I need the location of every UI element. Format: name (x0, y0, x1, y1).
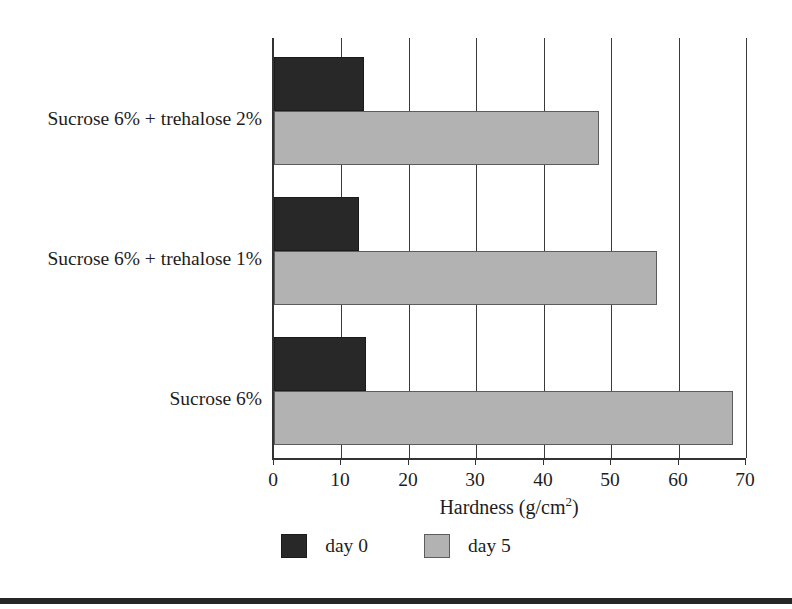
x-tick-label-60: 60 (668, 468, 688, 492)
legend-item-day5: day 5 (424, 534, 511, 558)
x-tick-30 (475, 458, 476, 465)
category-label-1: Sucrose 6% + trehalose 1% (0, 248, 262, 270)
x-axis-line (272, 458, 746, 460)
chart-legend: day 0 day 5 (0, 534, 792, 558)
x-axis-title: Hardness (g/cm2) (272, 494, 746, 519)
legend-label-day0: day 0 (325, 535, 368, 557)
x-axis-title-close: ) (572, 496, 579, 518)
x-tick-label-50: 50 (600, 468, 620, 492)
x-tick-label-0: 0 (268, 468, 278, 492)
x-tick-label-10: 10 (330, 468, 350, 492)
x-tick-label-40: 40 (533, 468, 553, 492)
plot-area (272, 38, 745, 458)
bar-day0-sucrose6 (274, 337, 366, 391)
x-tick-70 (745, 458, 746, 465)
legend-item-day0: day 0 (281, 534, 368, 558)
bar-day0-sucrose6-trehalose2 (274, 57, 364, 111)
page-bottom-rule (0, 598, 792, 604)
bar-day5-sucrose6 (274, 391, 733, 445)
bar-day0-sucrose6-trehalose1 (274, 197, 359, 251)
legend-label-day5: day 5 (468, 535, 511, 557)
gridline-70 (746, 38, 747, 458)
x-tick-label-30: 30 (465, 468, 485, 492)
category-label-0: Sucrose 6% + trehalose 2% (0, 108, 262, 130)
bar-chart-figure: Sucrose 6% + trehalose 2% Sucrose 6% + t… (0, 0, 792, 609)
x-tick-40 (543, 458, 544, 465)
x-tick-0 (273, 458, 274, 465)
legend-swatch-day5-icon (424, 534, 450, 558)
x-tick-20 (408, 458, 409, 465)
category-axis-labels: Sucrose 6% + trehalose 2% Sucrose 6% + t… (0, 38, 268, 458)
x-tick-50 (610, 458, 611, 465)
x-tick-label-20: 20 (398, 468, 418, 492)
x-tick-label-70: 70 (735, 468, 755, 492)
category-label-2: Sucrose 6% (0, 388, 262, 410)
bar-day5-sucrose6-trehalose2 (274, 111, 599, 165)
x-tick-60 (678, 458, 679, 465)
legend-swatch-day0-icon (281, 534, 307, 558)
x-tick-10 (340, 458, 341, 465)
x-axis-title-main: Hardness (g/cm (439, 496, 565, 518)
bar-day5-sucrose6-trehalose1 (274, 251, 657, 305)
